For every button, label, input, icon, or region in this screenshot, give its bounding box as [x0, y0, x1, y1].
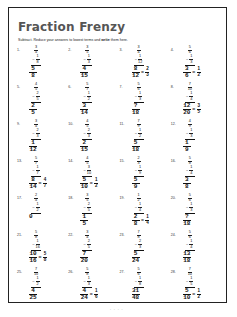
subtrahend-denominator: 3: [139, 246, 141, 250]
instructions-suffix: them here.: [110, 38, 128, 42]
answer-numerator: 4: [31, 288, 35, 294]
answer-numerator: 4: [82, 288, 86, 294]
minus-sign: −: [84, 132, 86, 136]
problem-item: 21.58−1161016=58: [17, 231, 68, 268]
simplified-answer: 58: [43, 252, 47, 263]
simplified-denominator: 7: [44, 184, 47, 189]
minus-sign: −: [32, 243, 34, 247]
minus-sign: −: [186, 169, 188, 173]
answer-numerator: 5: [134, 177, 138, 183]
equals-sign: =: [192, 291, 195, 297]
answer-numerator: 5: [31, 66, 35, 72]
minus-sign: −: [186, 95, 188, 99]
problem-number: 27.: [120, 270, 125, 274]
answer-numerator: 1: [185, 140, 189, 146]
subtrahend-denominator: 9: [139, 172, 141, 176]
subtrahend-denominator: 4: [139, 209, 141, 213]
problem-item: 10.45−23215: [68, 120, 119, 157]
problem-number: 20.: [171, 196, 176, 200]
equals-sign: =: [39, 180, 42, 186]
subtrahend-denominator: 3: [88, 61, 90, 65]
problem-number: 3.: [120, 48, 123, 52]
answer-denominator: 5: [31, 110, 35, 116]
problem-number: 14.: [68, 159, 73, 163]
answer-numerator: 2: [82, 140, 86, 146]
minus-sign: −: [32, 95, 34, 99]
answer-numerator: 5: [185, 288, 189, 294]
answer-denominator: 14: [81, 110, 88, 116]
problem-item: 8.710−141220=35: [171, 83, 222, 120]
worksheet-page: Fraction Frenzy Subtract. Reduce your an…: [8, 7, 227, 303]
problem-item: 19.12−1428=14: [120, 194, 171, 231]
problem-number: 19.: [120, 196, 125, 200]
problem-item: 16.58−1438: [171, 157, 222, 194]
answer-numerator: 1: [31, 140, 35, 146]
problem-number: 4.: [171, 48, 174, 52]
answer: 28=14: [132, 214, 150, 227]
answer-denominator: 12: [29, 147, 36, 153]
answer-denominator: 9: [134, 184, 138, 190]
problem-number: 7.: [120, 85, 123, 89]
subtrahend-denominator: 3: [190, 209, 192, 213]
answer: 25: [29, 103, 37, 116]
problem-item: 15.23−1959: [120, 157, 171, 194]
problem-item: 28.710−15510=12: [171, 268, 222, 305]
answer-denominator: 12: [132, 73, 139, 79]
subtrahend-denominator: 3: [190, 135, 192, 139]
problem-item: 2.35−13415: [68, 46, 119, 83]
problem-number: 13.: [17, 159, 22, 163]
problem-item: 4.56−1336=12: [171, 46, 222, 83]
answer-numerator: 8: [31, 177, 35, 183]
answer: 510=12: [80, 177, 98, 190]
simplified-answer: 14: [145, 215, 149, 226]
minus-sign: −: [135, 280, 137, 284]
answer-denominator: 10: [81, 184, 88, 190]
answer-denominator: 14: [29, 184, 36, 190]
answer-denominator: 6: [185, 73, 189, 79]
problem-number: 22.: [68, 233, 73, 237]
answer-denominator: 15: [81, 73, 88, 79]
problem-item: 11.79−12518: [120, 120, 171, 157]
answer-denominator: 24: [132, 258, 139, 264]
problem-number: 18.: [68, 196, 73, 200]
minus-sign: −: [135, 132, 137, 136]
answer-denominator: 48: [132, 295, 139, 301]
answer: 59: [132, 177, 140, 190]
subtrahend-denominator: 3: [190, 61, 192, 65]
answer-numerator: 2: [31, 103, 35, 109]
answer-numerator: 5: [134, 251, 138, 257]
instructions-bold: write: [101, 38, 109, 42]
answer: 3148: [132, 288, 140, 301]
answer: 58: [29, 66, 37, 79]
equals-sign: =: [192, 106, 195, 112]
problem-item: 3.34−112812=23: [120, 46, 171, 83]
problem-item: 1.34−1858: [17, 46, 68, 83]
answer-numerator: 5: [134, 140, 138, 146]
answer-denominator: 24: [81, 295, 88, 301]
answer-numerator: ?: [134, 103, 138, 109]
problem-number: 8.: [171, 85, 174, 89]
answer-numerator: 3: [185, 177, 189, 183]
simplified-answer: 35: [197, 104, 201, 115]
answer-denominator: 8: [31, 73, 35, 79]
answer-denominator: 18: [132, 110, 139, 116]
answer-numerator: 10: [29, 251, 36, 257]
minus-sign: −: [135, 206, 137, 210]
problem-item: 9.34−23112: [17, 120, 68, 157]
minus-sign: −: [84, 95, 86, 99]
answer-denominator: 20: [183, 110, 190, 116]
subtrahend-denominator: 3: [139, 98, 141, 102]
answer-numerator: 5: [82, 177, 86, 183]
simplified-answer: 23: [145, 67, 149, 78]
problem-number: 17.: [17, 196, 22, 200]
subtrahend-denominator: 8: [37, 61, 39, 65]
answer: 524: [132, 251, 140, 264]
simplified-denominator: 8: [44, 258, 47, 263]
simplified-denominator: 5: [197, 110, 200, 115]
subtrahend-denominator: 2: [37, 209, 39, 213]
subtrahend-denominator: 5: [37, 98, 39, 102]
answer-numerator: 8: [134, 66, 138, 72]
problem-item: 18.35−2515: [68, 194, 119, 231]
answer: 15: [80, 214, 88, 227]
problem-item: 27.56−183148: [120, 268, 171, 305]
